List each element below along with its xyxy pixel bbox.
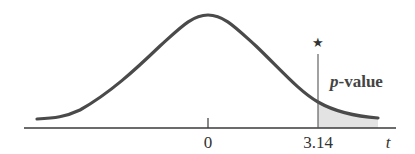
pvalue-label-italic: p — [328, 72, 339, 91]
density-curve — [37, 15, 378, 119]
star-marker-icon: ★ — [312, 35, 324, 50]
pvalue-label: p-value — [328, 72, 383, 91]
axis-variable-label: t — [386, 133, 392, 152]
tick-label-zero: 0 — [204, 133, 213, 152]
pvalue-label-rest: -value — [339, 72, 384, 91]
tick-label-stat: 3.14 — [303, 133, 333, 152]
t-distribution-figure: ★ p-value 0 3.14 t — [0, 0, 415, 154]
